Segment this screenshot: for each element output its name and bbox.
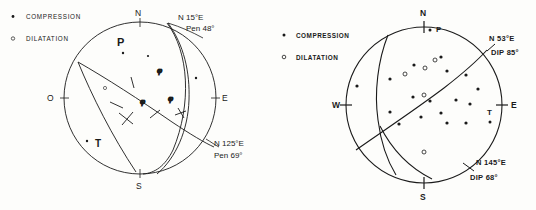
left-label-south: S: [136, 181, 142, 191]
right-plane1-dip: DIP 85°: [491, 48, 519, 57]
right-legend-dilatation-label: DILATATION: [296, 54, 338, 61]
right-plane2-dip: DIP 68°: [470, 173, 498, 182]
left-p-axis-point: [122, 52, 124, 54]
right-plane1-strike: N 53°E: [489, 34, 515, 43]
compression-point: [397, 122, 400, 125]
right-label-east: E: [511, 100, 517, 110]
right-label-north: N: [420, 8, 426, 18]
compression-point: [445, 121, 448, 124]
compression-point: [468, 102, 471, 105]
compression-point: [412, 63, 415, 66]
left-legend-dilatation-label: DILATATION: [26, 35, 69, 42]
compression-point: [411, 95, 414, 98]
compression-point: [355, 84, 358, 87]
left-label-t-axis: T: [95, 138, 101, 149]
left-label-west: O: [47, 93, 54, 103]
right-legend-compression-label: COMPRESSION: [296, 32, 349, 39]
compression-marker-icon: [12, 15, 15, 18]
left-label-east: E: [222, 93, 228, 103]
right-t-axis-point: [489, 121, 492, 124]
compression-point: [454, 98, 457, 101]
compression-point: [464, 121, 467, 124]
compression-point: [419, 115, 422, 118]
compression-point: [439, 111, 442, 114]
right-plane2-strike: N 145°E: [476, 158, 506, 167]
right-label-west: W: [332, 100, 341, 110]
compression-point: [464, 73, 467, 76]
left-plane1-strike: N 15°E: [178, 13, 203, 22]
left-plane2-dip: Pen 69°: [214, 151, 243, 160]
left-label-north: N: [135, 8, 141, 18]
compression-point: [476, 87, 479, 90]
right-p-axis-point: [429, 29, 432, 32]
left-t-axis-point: [86, 140, 88, 142]
right-label-p-axis: P: [436, 25, 442, 34]
phi-symbol: φ: [157, 66, 162, 75]
compression-point: [195, 77, 197, 79]
figure-root: COMPRESSION DILATATION N S E O P: [0, 0, 536, 210]
compression-point: [388, 110, 391, 113]
left-legend-compression-label: COMPRESSION: [26, 13, 81, 20]
left-label-p-axis: P: [117, 36, 124, 48]
compression-point: [428, 99, 431, 102]
left-plane2-strike: N 125°E: [214, 139, 244, 148]
right-label-south: S: [420, 192, 426, 202]
compression-marker-icon: [283, 34, 286, 37]
compression-point: [388, 77, 391, 80]
phi-symbol: φ: [140, 97, 145, 106]
figure-background: [0, 0, 536, 210]
compression-point: [445, 69, 448, 72]
compression-point: [439, 55, 442, 58]
right-label-t-axis: T: [487, 108, 492, 117]
stereonet-figure-svg: COMPRESSION DILATATION N S E O P: [0, 0, 536, 210]
left-plane1-dip: Pen 48°: [186, 24, 215, 33]
compression-point: [147, 55, 149, 57]
phi-symbol: φ: [168, 94, 173, 103]
